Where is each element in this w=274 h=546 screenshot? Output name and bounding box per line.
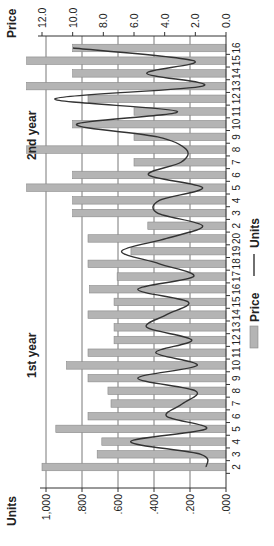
left-tick-label: .200 (184, 494, 196, 515)
category-label: 9 (231, 375, 242, 381)
category-label: 5 (231, 426, 242, 432)
category-label: 19 (231, 245, 242, 257)
category-label: 18 (231, 258, 242, 270)
category-label: 15 (231, 296, 242, 308)
category-label: 11 (231, 106, 242, 117)
price-bar (73, 197, 226, 205)
price-bar (102, 438, 226, 446)
category-label: 2 (231, 464, 242, 470)
left-tick-label: .400 (148, 494, 160, 515)
price-bar (88, 349, 226, 357)
price-bar (108, 387, 226, 395)
category-label: 4 (231, 197, 242, 203)
category-label: 9 (231, 134, 242, 140)
category-label: 12 (231, 334, 242, 346)
price-bar (27, 146, 226, 154)
category-label: 3 (231, 451, 242, 457)
category-label: 16 (231, 42, 242, 54)
legend-bar-label: Price (248, 292, 262, 322)
right-tick-label: 10.0 (67, 7, 79, 28)
left-tick-label: .800 (76, 494, 88, 515)
category-label: 6 (231, 413, 242, 419)
left-tick-label: 1,000 (40, 494, 52, 520)
category-label: 8 (231, 146, 242, 152)
price-bar (88, 412, 226, 420)
price-bar (148, 222, 226, 230)
category-label: 14 (231, 67, 242, 79)
category-label: 8 (231, 388, 242, 394)
price-bar (90, 285, 226, 293)
price-bar (73, 70, 226, 78)
right-tick-label: 8.0 (97, 13, 109, 28)
category-label: 2 (231, 223, 242, 229)
price-bar (42, 463, 226, 471)
year2-label: 2nd year (25, 110, 39, 160)
chart-rotated-container: .000.200.400.600.8001,0000.02.04.06.08.0… (0, 0, 274, 546)
price-bar (88, 260, 226, 268)
category-label: 17 (231, 271, 242, 283)
legend-bar-swatch (250, 326, 258, 348)
legend-line-label: Units (248, 218, 262, 248)
price-bar (114, 324, 226, 332)
price-bar (88, 374, 226, 382)
right-tick-label: 6.0 (128, 13, 140, 28)
price-bar (88, 311, 226, 319)
right-tick-label: 0.0 (220, 13, 232, 28)
left-tick-label: .000 (220, 494, 232, 515)
category-label: 7 (231, 159, 242, 165)
left-axis-title: Units (5, 496, 19, 526)
category-label: 5 (231, 184, 242, 190)
category-label: 3 (231, 210, 242, 216)
category-label: 13 (231, 321, 242, 333)
price-bar (134, 133, 226, 141)
price-bar (117, 273, 226, 281)
right-tick-label: 12.0 (36, 7, 48, 28)
category-label: 7 (231, 400, 242, 406)
legend: Price Units (248, 218, 262, 348)
price-bars (27, 44, 226, 471)
price-bar (131, 247, 226, 255)
category-label: 10 (231, 118, 242, 130)
category-label: 13 (231, 80, 242, 92)
year1-label: 1st year (25, 332, 39, 378)
price-bar (134, 108, 226, 116)
category-label: 10 (231, 359, 242, 371)
price-bar (56, 425, 226, 433)
left-tick-label: .600 (112, 494, 124, 515)
category-label: 11 (231, 347, 242, 358)
price-bar (114, 336, 226, 344)
price-bar (27, 57, 226, 65)
category-label: 15 (231, 55, 242, 67)
category-label: 20 (231, 232, 242, 244)
price-bar (88, 95, 226, 103)
price-bar (73, 209, 226, 217)
price-bar (111, 400, 226, 408)
category-label: 6 (231, 172, 242, 178)
right-tick-label: 4.0 (159, 13, 171, 28)
right-axis-title: Price (5, 8, 19, 38)
price-bar (67, 362, 226, 370)
category-label: 12 (231, 93, 242, 105)
category-label: 14 (231, 309, 242, 321)
category-label: 16 (231, 283, 242, 295)
combo-chart: .000.200.400.600.8001,0000.02.04.06.08.0… (0, 0, 274, 546)
category-label: 4 (231, 438, 242, 444)
right-tick-label: 2.0 (189, 13, 201, 28)
price-bar (114, 298, 226, 306)
price-bar (27, 82, 226, 90)
